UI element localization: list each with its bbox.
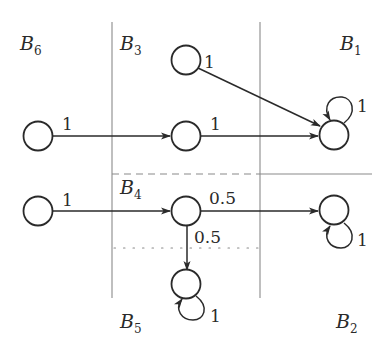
self-loop-n8 [179,296,204,320]
weight-n6-n8: 0.5 [194,227,221,247]
weight-n5-n6: 1 [62,190,73,210]
block-label-b4: B4 [119,176,142,202]
block-label-b5: B5 [119,310,142,336]
weight-n6-n7: 0.5 [209,188,236,208]
state-node-n4 [320,121,349,150]
block-label-b1: B1 [339,32,362,58]
self-loop-n7 [327,223,352,248]
state-node-n1 [172,46,201,75]
block-label-b3: B3 [119,32,142,58]
state-node-n7 [320,196,349,225]
weight-n8-self: 1 [210,306,221,326]
block-label-b2: B2 [335,310,358,336]
state-node-n8 [172,270,201,299]
state-node-n2 [24,122,53,151]
weight-n7-self: 1 [357,230,368,250]
weight-n3-n4: 1 [210,114,221,134]
weight-n1-n4: 1 [204,52,215,72]
block-label-b6: B6 [19,32,42,58]
self-loop-n4 [327,97,352,123]
state-node-n6 [172,197,201,226]
state-node-n3 [172,122,201,151]
state-node-n5 [24,197,53,226]
weight-n2-n3: 1 [62,114,73,134]
weight-n4-self: 1 [357,96,368,116]
block-diagram: B6 B3 B1 B4 B5 B2 1 1 1 1 1 0.5 0.5 1 1 [0,0,384,346]
